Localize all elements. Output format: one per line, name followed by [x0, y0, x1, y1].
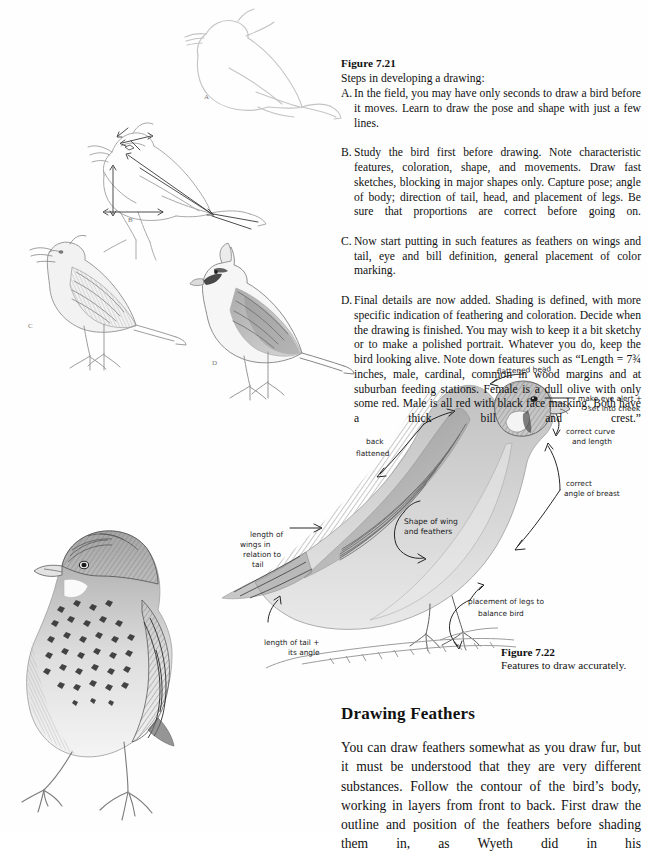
- sketch-c-bird: [30, 235, 186, 370]
- figure-721-subtitle: Steps in developing a drawing:: [341, 71, 641, 86]
- breast-spots: [43, 600, 135, 706]
- annotation-length-wings-3: relation to: [243, 550, 281, 559]
- section-body: You can draw feathers somewhat as you dr…: [341, 738, 641, 855]
- sketch-d-bird: [190, 243, 354, 400]
- step-item-a: A. In the field, you may have only secon…: [341, 87, 641, 146]
- step-letter-c: C.: [341, 235, 354, 294]
- annotation-placement-legs-2: balance bird: [478, 609, 524, 618]
- sketch-label-b: B: [128, 216, 133, 224]
- figure-722-heading: Figure 7.22: [501, 646, 647, 659]
- sketch-a-bird: [185, 9, 341, 119]
- sketch-label-c: C: [28, 322, 33, 330]
- step-letter-a: A.: [341, 87, 354, 146]
- annotation-length-wings-4: tail: [252, 560, 264, 569]
- step-letter-b: B.: [341, 146, 354, 235]
- figure-721-heading: Figure 7.21: [341, 56, 641, 70]
- annotation-length-tail-2: its angle: [288, 648, 320, 657]
- annotation-length-tail-1: length of tail +: [264, 638, 319, 647]
- annotation-length-wings-1: length of: [250, 530, 283, 539]
- figure-721-text-column: Figure 7.21 Steps in developing a drawin…: [341, 56, 641, 442]
- sketch-label-d: D: [212, 359, 217, 367]
- step-text-d: Final details are now added. Shading is …: [354, 294, 641, 442]
- sketch-label-a: A: [204, 93, 209, 101]
- annotation-shape-of-wing-1: Shape of wing: [404, 517, 458, 526]
- sketch-b-bird: [88, 123, 266, 260]
- annotation-shape-of-wing-2: and feathers: [404, 527, 452, 536]
- step-item-d: D. Final details are now added. Shading …: [341, 294, 641, 442]
- figure-722-caption: Features to draw accurately.: [501, 659, 647, 672]
- thrush-drawing: [22, 531, 174, 820]
- step-text-c: Now start putting in such features as fe…: [354, 235, 641, 294]
- step-letter-d: D.: [341, 294, 354, 442]
- step-item-b: B. Study the bird first before drawing. …: [341, 146, 641, 235]
- annotation-length-wings-2: wings in: [240, 540, 271, 549]
- step-item-c: C. Now start putting in such features as…: [341, 235, 641, 294]
- step-text-a: In the field, you may have only seconds …: [354, 87, 641, 146]
- section-heading: Drawing Feathers: [341, 704, 641, 724]
- step-text-b: Study the bird first before drawing. Not…: [354, 146, 641, 235]
- annotation-correct-angle-1: correct: [566, 479, 592, 488]
- annotation-correct-angle-2: angle of breast: [564, 489, 620, 498]
- figure-722-caption-block: Figure 7.22 Features to draw accurately.: [501, 646, 647, 673]
- annotation-back-flattened-2: flattened: [356, 449, 390, 458]
- figure-721-steps-list: A. In the field, you may have only secon…: [341, 87, 641, 442]
- annotation-placement-legs-1: placement of legs to: [468, 597, 544, 606]
- drawing-feathers-section: Drawing Feathers You can draw feathers s…: [341, 704, 641, 855]
